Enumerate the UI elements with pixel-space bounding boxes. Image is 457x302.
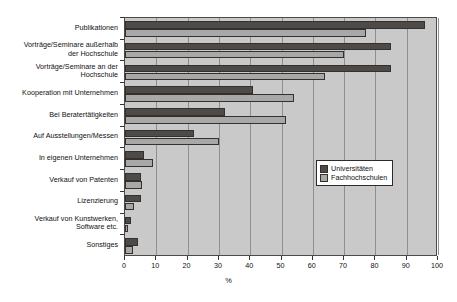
y-tick [120,39,124,40]
x-tick-label: 60 [301,261,323,270]
x-tick [155,256,156,260]
x-tick-label: 100 [426,261,448,270]
bar-0 [125,43,391,51]
category-label: Verkauf von Patenten [0,176,118,184]
bar-rows [125,18,436,255]
bar-0 [125,108,225,116]
bar-group [125,61,436,83]
x-tick [249,256,250,260]
x-tick [187,256,188,260]
x-tick-label: 20 [176,261,198,270]
bar-0 [125,21,425,29]
category-label: Publikationen [0,24,118,32]
bar-1 [125,159,153,167]
bar-group [125,127,436,149]
x-tick [312,256,313,260]
bar-group [125,192,436,214]
legend-label: Universitäten [331,164,373,173]
bar-0 [125,65,391,73]
category-label: Auf Ausstellungen/Messen [0,132,118,140]
x-tick [343,256,344,260]
bar-1 [125,116,286,124]
y-tick [120,147,124,148]
bar-group [125,18,436,40]
y-tick [120,169,124,170]
category-label: Lizenzierung [0,197,118,205]
x-tick-label: 90 [395,261,417,270]
bar-1 [125,73,325,81]
gridline [438,18,439,255]
bar-group [125,40,436,62]
y-tick [120,191,124,192]
x-tick-label: 40 [238,261,260,270]
x-tick [124,256,125,260]
plot-area [124,17,437,256]
bar-group [125,105,436,127]
bar-1 [125,181,142,189]
y-tick [120,213,124,214]
y-tick [120,126,124,127]
category-label: In eigenen Unternehmen [0,154,118,162]
bar-0 [125,86,253,94]
bar-0 [125,238,138,246]
x-tick-label: 10 [144,261,166,270]
y-tick [120,82,124,83]
y-tick [120,60,124,61]
bar-1 [125,51,344,59]
category-label: Vorträge/Seminare an der Hochschule [0,63,118,80]
category-axis-labels: PublikationenVorträge/Seminare außerhalb… [0,17,121,256]
x-tick-label: 80 [363,261,385,270]
dark-swatch [320,165,328,173]
chart-legend: UniversitätenFachhochschulen [316,160,393,186]
x-tick [281,256,282,260]
bar-0 [125,217,131,225]
x-tick [218,256,219,260]
category-label: Sonstiges [0,241,118,249]
bar-0 [125,173,141,181]
legend-item: Fachhochschulen [320,173,387,182]
x-tick [374,256,375,260]
legend-item: Universitäten [320,164,387,173]
category-label: Vorträge/Seminare außerhalb der Hochschu… [0,41,118,58]
y-tick [120,17,124,18]
bar-group [125,83,436,105]
x-tick-label: 30 [207,261,229,270]
bar-1 [125,29,366,37]
x-axis-title: % [0,276,457,285]
x-tick-label: 0 [113,261,135,270]
bar-1 [125,138,219,146]
x-tick-label: 50 [270,261,292,270]
y-tick [120,104,124,105]
bar-0 [125,151,144,159]
bar-1 [125,94,294,102]
category-label: Kooperation mit Unternehmen [0,89,118,97]
bar-group [125,235,436,257]
bar-0 [125,130,194,138]
legend-label: Fachhochschulen [331,173,387,182]
category-label: Verkauf von Kunstwerken, Software etc. [0,215,118,232]
x-tick-label: 70 [332,261,354,270]
x-tick [406,256,407,260]
light-swatch [320,174,328,182]
bar-1 [125,203,134,211]
bar-group [125,214,436,236]
bar-chart: PublikationenVorträge/Seminare außerhalb… [0,0,457,302]
y-tick [120,234,124,235]
bar-1 [125,246,133,254]
bar-0 [125,195,141,203]
x-tick [437,256,438,260]
bar-1 [125,225,128,233]
category-label: Bei Beratertätigkeiten [0,111,118,119]
